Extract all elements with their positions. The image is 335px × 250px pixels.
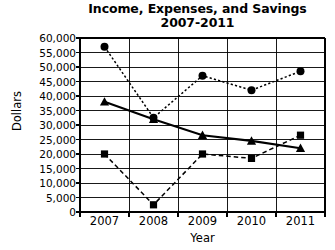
data-point-circle <box>199 72 207 80</box>
x-axis-label: Year <box>80 231 325 245</box>
x-axis-tick-label: 2011 <box>276 214 325 228</box>
series-line <box>105 47 301 118</box>
chart-container: Income, Expenses, and Savings 2007-2011 … <box>0 0 335 250</box>
series-savings <box>101 132 304 209</box>
data-point-triangle <box>100 97 109 105</box>
data-point-square <box>199 150 206 157</box>
data-point-square <box>297 132 304 139</box>
series-line <box>105 135 301 205</box>
data-point-square <box>248 155 255 162</box>
x-axis-tick-label: 2008 <box>129 214 178 228</box>
x-axis-tick-label: 2007 <box>80 214 129 228</box>
data-point-circle <box>248 86 256 94</box>
x-axis-tick-label: 2009 <box>178 214 227 228</box>
data-point-circle <box>297 67 305 75</box>
plot-area <box>0 0 335 250</box>
data-point-square <box>150 201 157 208</box>
x-axis-tick-label: 2010 <box>227 214 276 228</box>
data-point-circle <box>101 43 109 51</box>
series-income <box>101 43 305 122</box>
data-point-square <box>101 150 108 157</box>
